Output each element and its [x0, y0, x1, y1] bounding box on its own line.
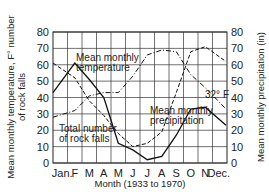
temperature-label-line2: temperature	[76, 62, 130, 73]
right-tick-label: 40	[231, 92, 243, 104]
left-tick-label: 70	[37, 42, 49, 54]
left-tick-label: 10	[37, 141, 49, 153]
left-tick-label: 20	[37, 124, 49, 136]
right-tick-label: 50	[231, 75, 243, 87]
left-y-axis-label-line1: Mean monthly temperature, F° number	[5, 15, 16, 178]
rockfall-climate-chart: 01020304050607080 01020304050607080 Jan.…	[0, 0, 269, 192]
month-tick-label: F	[71, 167, 78, 179]
month-tick-label: M	[85, 167, 94, 179]
left-tick-label: 30	[37, 108, 49, 120]
month-tick-label: Dec.	[207, 167, 230, 179]
right-tick-label: 80	[231, 26, 243, 38]
left-tick-label: 50	[37, 75, 49, 87]
rockfalls-label-line2: of rock falls	[59, 133, 110, 144]
right-tick-label: 10	[231, 141, 243, 153]
right-tick-label: 20	[231, 124, 243, 136]
left-tick-label: 40	[37, 92, 49, 104]
left-y-axis-label-line2: of rock falls	[16, 73, 27, 121]
left-tick-label: 60	[37, 59, 49, 71]
x-axis-label: Month (1933 to 1970)	[95, 178, 186, 189]
right-tick-label: 70	[231, 42, 243, 54]
right-tick-label: 60	[231, 59, 243, 71]
precipitation-label-line2: precipitation	[150, 115, 204, 126]
right-tick-label: 0	[231, 157, 237, 169]
freezing-annotation: 32° F	[205, 89, 229, 100]
month-tick-label: O	[186, 167, 195, 179]
left-tick-label: 80	[37, 26, 49, 38]
left-y-axis-ticks: 01020304050607080	[37, 26, 49, 169]
right-tick-label: 30	[231, 108, 243, 120]
right-y-axis-label: Mean monthly precipitation (in)	[255, 32, 266, 162]
month-tick-label: Jan.	[52, 167, 73, 179]
right-y-axis-ticks: 01020304050607080	[231, 26, 243, 169]
left-tick-label: 0	[43, 157, 49, 169]
